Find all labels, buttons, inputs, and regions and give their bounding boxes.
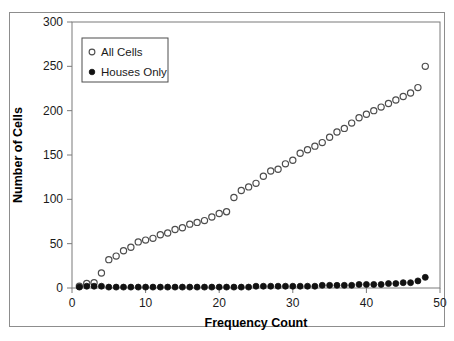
data-point [179, 284, 185, 290]
data-point [106, 257, 112, 263]
data-point [275, 166, 281, 172]
y-tick-label: 100 [43, 192, 63, 206]
data-point [385, 281, 391, 287]
data-point [297, 150, 303, 156]
data-point [98, 283, 104, 289]
data-point [157, 232, 163, 238]
data-point [422, 274, 428, 280]
y-tick-label: 50 [50, 237, 64, 251]
y-axis-ticks [67, 22, 72, 288]
data-point [187, 221, 193, 227]
data-point [179, 225, 185, 231]
data-point [157, 284, 163, 290]
data-point [246, 184, 252, 190]
x-tick-label: 40 [360, 296, 374, 310]
data-point [349, 120, 355, 126]
x-tick-label: 30 [286, 296, 300, 310]
chart-legend: All CellsHouses Only [82, 38, 168, 82]
data-point [216, 210, 222, 216]
y-tick-label: 250 [43, 59, 63, 73]
data-point [327, 282, 333, 288]
data-point [135, 239, 141, 245]
x-tick-label: 50 [433, 296, 447, 310]
data-point [98, 270, 104, 276]
y-tick-label: 150 [43, 148, 63, 162]
data-point [282, 283, 288, 289]
data-point [304, 147, 310, 153]
data-point [319, 139, 325, 145]
data-point [268, 168, 274, 174]
data-point [393, 97, 399, 103]
y-axis-title: Number of Cells [11, 107, 25, 203]
data-point [172, 284, 178, 290]
data-point [363, 111, 369, 117]
data-point [231, 284, 237, 290]
data-point [319, 282, 325, 288]
data-point [400, 280, 406, 286]
data-point [143, 237, 149, 243]
y-tick-label: 300 [43, 15, 63, 29]
data-point [76, 284, 82, 290]
data-point [400, 93, 406, 99]
data-point [246, 284, 252, 290]
x-axis-tick-labels: 01020304050 [69, 296, 447, 310]
data-point [106, 284, 112, 290]
data-point [260, 283, 266, 289]
data-point [415, 278, 421, 284]
scatter-plot: 050100150200250300 01020304050 All Cells… [0, 0, 454, 341]
data-point [209, 284, 215, 290]
data-point [363, 281, 369, 287]
x-tick-label: 10 [139, 296, 153, 310]
data-point [113, 284, 119, 290]
data-point [223, 209, 229, 215]
data-point [231, 194, 237, 200]
data-point [371, 108, 377, 114]
data-point [349, 282, 355, 288]
legend-marker-filled-circle [89, 69, 95, 75]
data-point [150, 284, 156, 290]
data-point [290, 157, 296, 163]
data-point [121, 284, 127, 290]
data-point [253, 283, 259, 289]
data-point [385, 100, 391, 106]
data-point [378, 104, 384, 110]
data-point [238, 284, 244, 290]
data-point [91, 283, 97, 289]
data-point [113, 253, 119, 259]
data-point [334, 129, 340, 135]
legend-marker-open-circle [89, 49, 95, 55]
data-point [260, 173, 266, 179]
data-point [268, 283, 274, 289]
data-point [393, 281, 399, 287]
data-point [194, 219, 200, 225]
data-point [84, 283, 90, 289]
data-point [253, 180, 259, 186]
data-point [275, 283, 281, 289]
data-point [120, 248, 126, 254]
data-point [194, 284, 200, 290]
data-point [209, 214, 215, 220]
data-point [216, 284, 222, 290]
data-point [305, 283, 311, 289]
x-axis-title: Frequency Count [205, 316, 309, 330]
data-point [128, 244, 134, 250]
y-axis-tick-labels: 050100150200250300 [43, 15, 63, 295]
data-point [415, 85, 421, 91]
data-point [150, 235, 156, 241]
data-point [143, 284, 149, 290]
data-point [327, 134, 333, 140]
x-tick-label: 20 [213, 296, 227, 310]
data-point [187, 284, 193, 290]
data-point [341, 125, 347, 131]
y-tick-label: 0 [56, 281, 63, 295]
data-point [371, 281, 377, 287]
data-point [172, 226, 178, 232]
data-point [290, 283, 296, 289]
data-point [341, 282, 347, 288]
data-point [165, 284, 171, 290]
data-point [356, 115, 362, 121]
legend-label: Houses Only [101, 66, 167, 78]
data-point [224, 284, 230, 290]
data-point [201, 284, 207, 290]
data-point [356, 281, 362, 287]
